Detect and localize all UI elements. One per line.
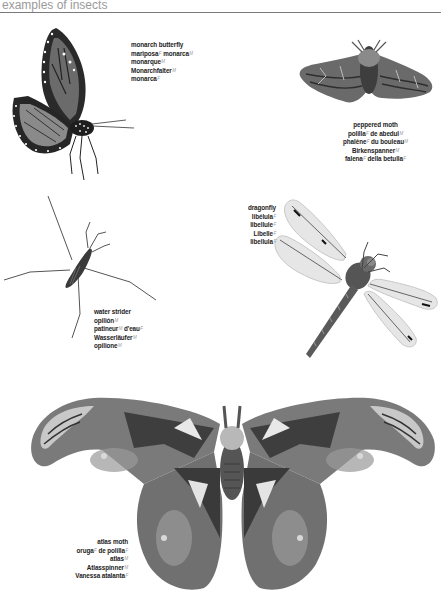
page-title: examples of insects: [2, 0, 107, 12]
page-header: examples of insects: [0, 0, 441, 14]
name-it: libellulaF: [231, 238, 276, 247]
monarch-butterfly-illustration: [4, 24, 144, 184]
dragonfly-illustration: [272, 190, 441, 362]
water-strider-label: water strider opiliónM patineurM d'eauF …: [94, 308, 143, 351]
water-strider-illustration: [0, 190, 170, 340]
name-it: opilioneM: [94, 342, 143, 351]
name-it: Vanessa atalantaF: [51, 572, 128, 581]
atlas-moth-label: atlas moth orugaF de polillaF atlasM Atl…: [51, 538, 128, 581]
dragonfly-label: dragonfly libélulaF libelluleF LibelleF …: [231, 204, 276, 247]
peppered-moth-illustration: [296, 36, 441, 116]
name-it: falenaF della betullaF: [318, 155, 433, 164]
peppered-moth-label: peppered moth polillaF de abedulM phalèn…: [318, 121, 433, 164]
monarch-butterfly-label: monarch butterfly mariposaF monarcaM mon…: [131, 41, 193, 84]
header-divider: [0, 12, 441, 13]
name-it: monarcaF: [131, 75, 193, 84]
